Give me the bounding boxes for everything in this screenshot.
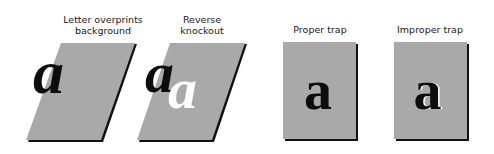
proper-trap-letter-a: a (304, 59, 332, 121)
improper-trap-letter-a: a (414, 59, 442, 121)
panel-improper-trap: a a (394, 42, 469, 141)
trapping-diagram: a a a a a a (0, 0, 494, 154)
knockout-white-letter-a: a (168, 56, 197, 121)
panel-overprint: a (26, 38, 137, 142)
overprint-letter-a: a (33, 38, 64, 106)
panel-proper-trap: a (283, 42, 358, 141)
panel-knockout: a a (137, 40, 247, 142)
